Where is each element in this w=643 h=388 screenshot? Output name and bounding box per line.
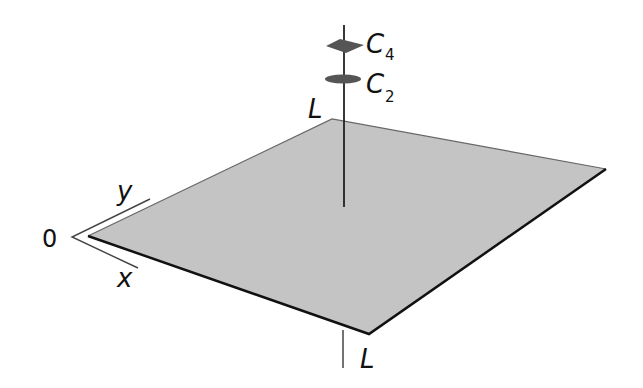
- c2-ellipse-marker: [325, 75, 361, 84]
- square-plane: [88, 119, 606, 334]
- square-plane-diagram: C 4 C 2 L L 0 y x: [0, 0, 643, 388]
- label-bottom-corner-l: L: [360, 344, 375, 374]
- label-c4-subscript: 4: [385, 46, 395, 64]
- label-origin: 0: [42, 225, 57, 253]
- label-c4: C: [366, 29, 385, 59]
- label-top-corner-l: L: [308, 94, 323, 124]
- label-c2: C: [366, 69, 385, 99]
- label-c2-subscript: 2: [385, 88, 395, 106]
- c4-diamond-marker: [326, 39, 364, 53]
- label-y-axis: y: [116, 176, 133, 206]
- label-x-axis: x: [116, 263, 133, 293]
